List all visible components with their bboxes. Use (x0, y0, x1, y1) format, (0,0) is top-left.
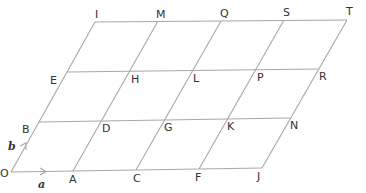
col-line-AM (73, 21, 158, 171)
col-line-CQ (136, 21, 221, 170)
point-label-Q: Q (220, 7, 229, 20)
point-label-M: M (156, 8, 166, 21)
point-label-P: P (257, 71, 264, 84)
vector-b-label: b (8, 140, 16, 153)
point-label-B: B (22, 123, 30, 136)
point-label-N: N (290, 119, 298, 132)
point-label-S: S (283, 6, 290, 19)
point-label-E: E (50, 74, 57, 87)
point-label-I: I (95, 8, 98, 21)
point-label-F: F (195, 171, 201, 184)
point-label-L: L (193, 72, 200, 85)
col-line-OI (11, 22, 95, 172)
point-label-T: T (345, 5, 353, 18)
point-label-G: G (164, 121, 173, 134)
col-line-FS (199, 20, 284, 169)
vector-a-label: a (38, 178, 45, 191)
parallelogram-grid-diagram: a b O A C F J B D G K N E H L P R I M Q … (0, 0, 366, 193)
point-label-C: C (133, 172, 141, 185)
point-label-D: D (102, 122, 110, 135)
point-label-J: J (256, 170, 260, 183)
point-label-K: K (227, 120, 235, 133)
point-label-A: A (69, 173, 77, 186)
col-line-JT (262, 20, 347, 168)
point-label-H: H (131, 73, 139, 86)
point-label-R: R (319, 70, 327, 83)
point-label-O: O (0, 167, 9, 180)
